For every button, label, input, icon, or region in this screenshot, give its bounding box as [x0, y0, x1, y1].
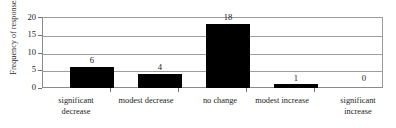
x-tick-4: [314, 88, 315, 92]
y-axis-title-wrapper: Frequency of responses: [0, 13, 14, 93]
x-tick-3: [246, 88, 247, 92]
x-label-line1: significant: [58, 96, 93, 105]
bar-no-change[interactable]: [206, 24, 250, 88]
x-tick-1: [110, 88, 111, 92]
y-tick-label-20: 20: [14, 13, 36, 22]
bar-value-no-change: 18: [208, 13, 248, 22]
bar-value-significant-increase: 0: [344, 74, 384, 83]
bar-modest-increase[interactable]: [274, 84, 318, 88]
x-label-line1: no change: [203, 96, 237, 105]
y-tick-mark-0: [38, 88, 42, 89]
bars-layer: 6 4 18 1 0: [42, 17, 383, 88]
x-axis-labels: significant decrease modest decrease no …: [42, 95, 383, 125]
bar-significant-decrease[interactable]: [70, 67, 114, 88]
x-label-line1: modest increase: [255, 96, 309, 105]
x-label-line1: modest decrease: [118, 96, 173, 105]
bar-modest-decrease[interactable]: [138, 74, 182, 88]
y-tick-label-10: 10: [14, 48, 36, 57]
x-label-modest-decrease: modest decrease: [104, 95, 188, 106]
x-label-line2: increase: [324, 106, 392, 117]
y-tick-label-5: 5: [14, 65, 36, 74]
x-tick-2: [178, 88, 179, 92]
bar-chart: Frequency of responses 20 15 10 5 0 6 4 …: [0, 0, 396, 128]
bar-value-modest-decrease: 4: [140, 63, 180, 72]
y-tick-label-15: 15: [14, 30, 36, 39]
x-label-significant-decrease: significant decrease: [42, 95, 110, 117]
y-tick-label-0: 0: [14, 83, 36, 92]
clipped-title-remnant: [0, 0, 396, 7]
x-label-line2: decrease: [42, 106, 110, 117]
bar-value-significant-decrease: 6: [72, 56, 112, 65]
x-label-significant-increase: significant increase: [324, 95, 392, 117]
x-label-line1: significant: [340, 96, 375, 105]
bar-value-modest-increase: 1: [276, 74, 316, 83]
x-label-modest-increase: modest increase: [240, 95, 324, 106]
